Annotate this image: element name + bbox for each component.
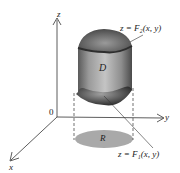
y-axis-label: y bbox=[165, 113, 169, 122]
region-label: R bbox=[100, 134, 106, 143]
origin-label: 0 bbox=[49, 108, 54, 117]
top-surface-label: z = F₂(x, y) bbox=[120, 24, 161, 33]
x-axis bbox=[10, 117, 57, 161]
leader-top-surface bbox=[130, 35, 143, 42]
x-axis-label: x bbox=[9, 163, 13, 172]
z-axis bbox=[53, 18, 61, 117]
solid-label: D bbox=[99, 63, 106, 73]
bottom-surface-label: z = F₁(x, y) bbox=[118, 150, 159, 159]
z-axis-label: z bbox=[57, 10, 61, 19]
y-axis bbox=[57, 114, 164, 122]
